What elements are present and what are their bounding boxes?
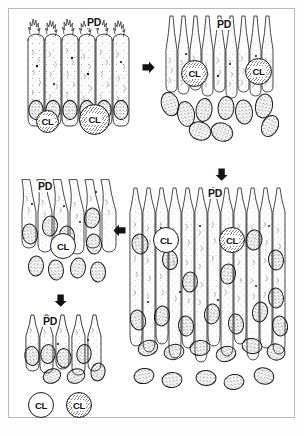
cl-label-panel2-right: CL	[251, 66, 265, 77]
cl-label-panel4-right: CL	[72, 400, 86, 411]
cl-label-panel5-left: CL	[159, 235, 173, 246]
cl-cell-panel2-left: CL	[181, 60, 208, 87]
figure-root: PD CL CL	[0, 0, 304, 436]
label-pd-panel5: PD	[207, 188, 223, 199]
cl-label-panel1-right: CL	[87, 114, 101, 125]
panel-stage-5-mature-tall-epithelium	[128, 186, 293, 414]
cl-label-panel3-center: CL	[56, 241, 70, 252]
label-pd-panel1: PD	[86, 17, 102, 28]
label-pd-panel4: PD	[42, 316, 58, 327]
panel-stage-2-detaching-cells	[160, 14, 290, 162]
arrow-stage2-to-stage5	[215, 168, 229, 182]
cl-cell-panel4-left: CL	[28, 392, 54, 418]
cl-label-panel2-left: CL	[187, 68, 201, 79]
arrow-stage1-to-stage2	[142, 61, 156, 74]
cl-label-panel1-left: CL	[40, 116, 54, 127]
label-pd-panel2: PD	[216, 19, 232, 30]
arrow-stage3-to-stage4	[54, 294, 68, 308]
cl-label-panel5-right: CL	[225, 235, 239, 246]
cl-cell-panel5-right: CL	[219, 227, 245, 253]
cl-cell-panel5-left: CL	[153, 227, 179, 253]
panel-stage-3-degenerating-epithelium	[20, 178, 118, 284]
cl-cell-panel3-center: CL	[50, 233, 76, 259]
cl-cell-panel1-right: CL	[79, 104, 110, 135]
cl-cell-panel4-right: CL	[66, 392, 92, 418]
label-pd-panel3: PD	[37, 181, 53, 192]
arrow-stage5-to-stage3	[112, 224, 126, 237]
cl-label-panel4-left: CL	[34, 400, 48, 411]
cl-cell-panel1-left: CL	[36, 110, 59, 133]
panel-stage-4-regenerating-epithelium	[22, 314, 114, 388]
cl-cell-panel2-right: CL	[245, 58, 272, 85]
